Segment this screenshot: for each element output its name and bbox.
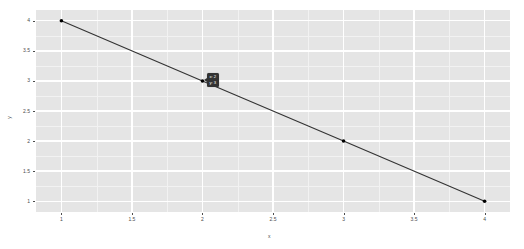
- x-tick-label: 3: [334, 217, 354, 222]
- data-point[interactable]: [60, 19, 64, 23]
- y-tick-label: 2: [16, 139, 30, 144]
- y-tick-label: 1: [16, 199, 30, 204]
- x-axis-title: x: [268, 234, 271, 239]
- x-tick-mark: [273, 213, 274, 215]
- data-layer: [36, 10, 510, 212]
- y-tick-label: 3.5: [16, 48, 30, 53]
- x-tick-mark: [414, 213, 415, 215]
- y-tick-mark: [33, 111, 35, 112]
- x-tick-label: 2.5: [263, 217, 283, 222]
- data-point[interactable]: [483, 199, 487, 203]
- y-tick-label: 3: [16, 78, 30, 83]
- x-tick-label: 1: [51, 217, 71, 222]
- y-tick-mark: [33, 171, 35, 172]
- y-axis-title: y: [7, 116, 12, 119]
- y-tick-mark: [33, 141, 35, 142]
- x-tick-mark: [485, 213, 486, 215]
- x-tick-label: 1.5: [122, 217, 142, 222]
- x-tick-mark: [132, 213, 133, 215]
- hover-tooltip: x: 2 y: 3: [207, 73, 219, 87]
- x-tick-label: 4: [475, 217, 495, 222]
- x-tick-label: 2: [192, 217, 212, 222]
- plot-panel[interactable]: [36, 10, 510, 212]
- x-tick-mark: [61, 213, 62, 215]
- x-tick-mark: [344, 213, 345, 215]
- x-tick-mark: [202, 213, 203, 215]
- data-point[interactable]: [342, 139, 346, 143]
- y-tick-mark: [33, 51, 35, 52]
- y-tick-mark: [33, 21, 35, 22]
- tooltip-y-value: y: 3: [209, 80, 216, 86]
- y-tick-label: 2.5: [16, 109, 30, 114]
- y-tick-mark: [33, 201, 35, 202]
- y-tick-mark: [33, 81, 35, 82]
- series-line: [61, 21, 484, 201]
- y-tick-label: 1.5: [16, 169, 30, 174]
- chart-container: y x 11.522.533.54 11.522.533.54 x: 2 y: …: [0, 0, 524, 249]
- x-tick-label: 3.5: [404, 217, 424, 222]
- y-tick-label: 4: [16, 18, 30, 23]
